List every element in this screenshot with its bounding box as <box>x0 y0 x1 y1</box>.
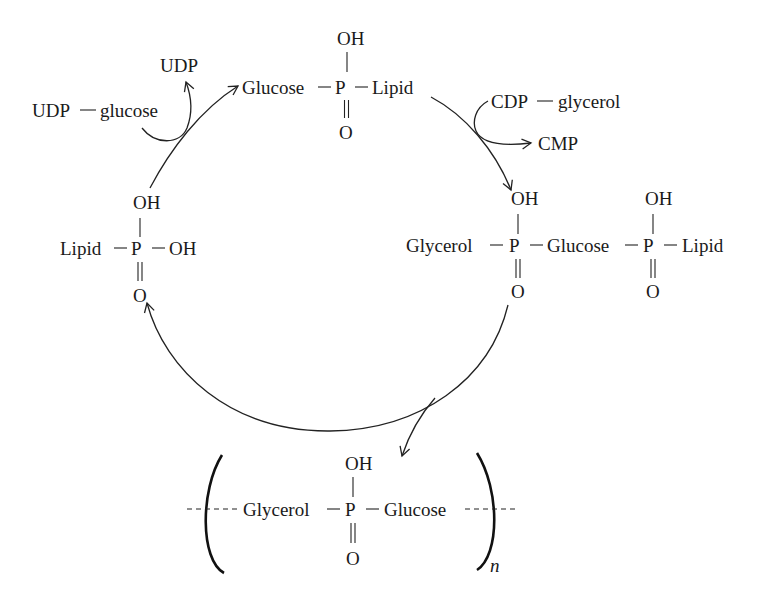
right-glucose-label: Glucose <box>547 235 609 256</box>
right-p1-oh-label: OH <box>511 188 539 209</box>
left-phosphorus-label: P <box>131 238 142 259</box>
cycle-arrow-right-to-left <box>147 303 508 431</box>
product-release-arrow <box>402 398 435 456</box>
left-lipid-label: Lipid <box>60 238 102 259</box>
right-parenthesis <box>477 453 494 570</box>
left-parenthesis <box>206 455 224 573</box>
product-polymer: Glycerol P Glucose OH O n <box>187 453 516 576</box>
top-oh-label: OH <box>337 28 365 49</box>
product-oh-label: OH <box>345 453 373 474</box>
glucose-input-label: glucose <box>100 100 158 121</box>
product-oxo-label: O <box>346 548 360 569</box>
udp-input-label: UDP <box>32 100 70 121</box>
repeat-subscript-n: n <box>490 555 500 576</box>
udp-output-label: UDP <box>160 55 198 76</box>
udp-glucose-reaction: UDP UDP glucose <box>32 55 198 141</box>
right-p2-oxo-label: O <box>646 281 660 302</box>
right-p2-label: P <box>643 235 654 256</box>
node-lipid-phosphate: OH Lipid P OH O <box>60 192 197 306</box>
left-oh-right-label: OH <box>169 238 197 259</box>
right-p1-oxo-label: O <box>511 281 525 302</box>
left-oh-top-label: OH <box>133 192 161 213</box>
cdp-glycerol-reaction: CDP glycerol CMP <box>474 91 620 154</box>
product-glycerol-label: Glycerol <box>243 499 309 520</box>
top-lipid-label: Lipid <box>372 77 414 98</box>
top-phosphorus-label: P <box>335 77 346 98</box>
left-oxo-label: O <box>133 285 147 306</box>
cycle-diagram: Glucose P Lipid OH O UDP UDP glucose CDP… <box>0 0 763 609</box>
node-glucose-phosphate-lipid: Glucose P Lipid OH O <box>242 28 414 143</box>
right-lipid-label: Lipid <box>682 235 724 256</box>
glycerol-input-label: glycerol <box>558 91 620 112</box>
cmp-output-label: CMP <box>538 133 578 154</box>
right-glycerol-label: Glycerol <box>406 235 472 256</box>
right-p1-label: P <box>509 235 520 256</box>
product-glucose-label: Glucose <box>384 499 446 520</box>
cdp-input-label: CDP <box>491 91 528 112</box>
top-oxo-label: O <box>339 122 353 143</box>
cycle-arrow-left-to-top <box>150 86 238 188</box>
node-glycerol-phosphate-glucose-phosphate-lipid: OH Glycerol P Glucose P Lipid OH O O <box>406 188 724 302</box>
right-p2-oh-label: OH <box>645 188 673 209</box>
product-phosphorus-label: P <box>345 499 356 520</box>
top-glucose-label: Glucose <box>242 77 304 98</box>
